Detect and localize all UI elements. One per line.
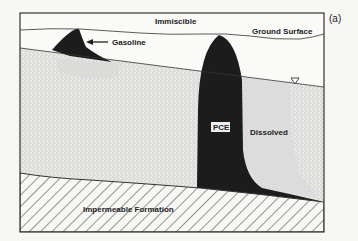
- label-immiscible: Immiscible: [155, 17, 197, 26]
- panel-label: (a): [329, 13, 341, 24]
- contamination-diagram: Immiscible Ground Surface Gasoline PCE D…: [0, 0, 358, 241]
- label-dissolved: Dissolved: [250, 128, 288, 137]
- label-gasoline: Gasoline: [112, 38, 146, 47]
- label-impermeable-formation: Impermeable Formation: [83, 205, 174, 214]
- label-pce: PCE: [213, 123, 230, 132]
- label-ground-surface: Ground Surface: [252, 27, 313, 36]
